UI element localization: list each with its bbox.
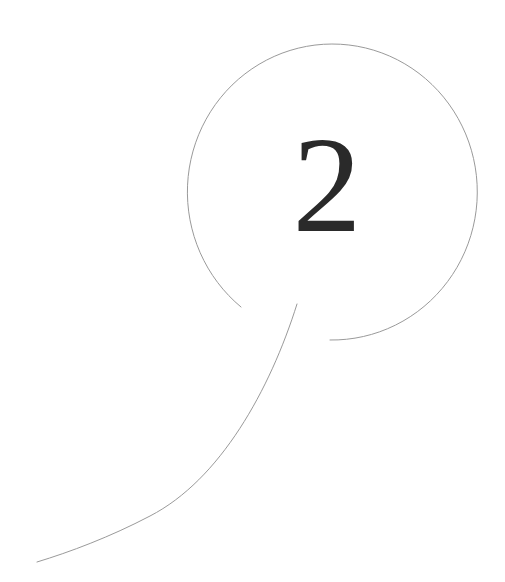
bubble-tail-curve [37,304,297,562]
number-label: 2 [293,108,362,261]
speech-bubble-figure: 2 [0,0,505,582]
